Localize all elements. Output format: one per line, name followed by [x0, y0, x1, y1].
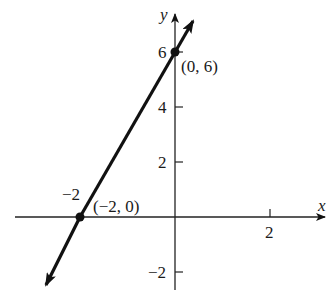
- y-tick-label-4: 4: [158, 98, 167, 117]
- y-ticks: [175, 52, 183, 272]
- x-label-neg2: −2: [62, 185, 80, 204]
- graph: y x 6 4 2 −2 2 −2 (0, 6) (−2, 0): [0, 0, 335, 296]
- y-tick-label-6: 6: [158, 43, 167, 62]
- point-0-6: [171, 48, 180, 57]
- y-tick-label-neg2: −2: [148, 263, 166, 282]
- x-tick-label-2: 2: [265, 223, 274, 242]
- y-axis-label: y: [158, 5, 168, 24]
- point-label-neg2-0: (−2, 0): [93, 197, 139, 216]
- line-y-3x-plus-6: [46, 217, 80, 285]
- y-tick-label-2: 2: [158, 153, 167, 172]
- point-label-0-6: (0, 6): [181, 57, 218, 76]
- x-axis-label: x: [317, 196, 326, 215]
- point-neg2-0: [76, 213, 85, 222]
